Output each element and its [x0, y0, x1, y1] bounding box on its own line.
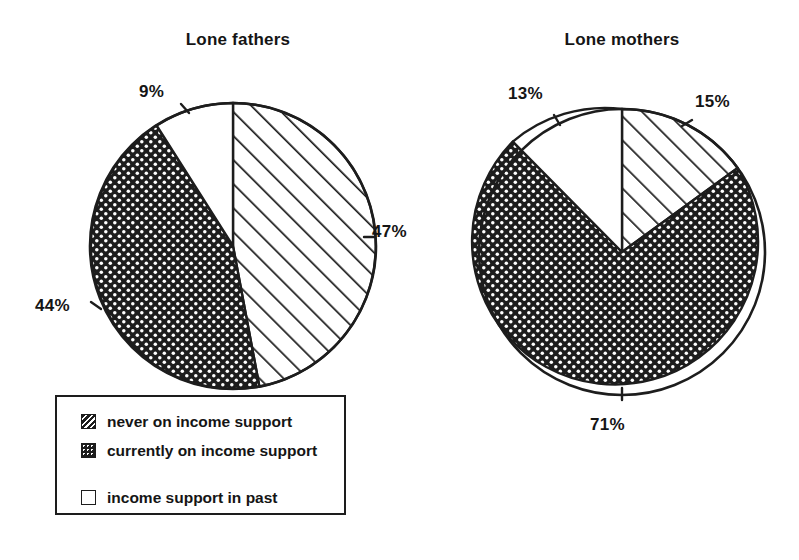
- pct-label-fathers-past: 9%: [139, 82, 164, 102]
- leader-fathers-current: [91, 302, 101, 309]
- legend-item-currently-on-income-support: currently on income support: [81, 440, 317, 461]
- pct-label-fathers-never: 47%: [372, 222, 407, 242]
- legend-label-currently-on-income-support: currently on income support: [107, 440, 317, 461]
- pct-label-mothers-past: 13%: [508, 84, 543, 104]
- legend-item-never-on-income-support: never on income support: [81, 411, 292, 432]
- legend-swatch-stipple-icon: [81, 443, 96, 458]
- chart-title-lone-mothers: Lone mothers: [532, 30, 712, 50]
- pie-chart-figure: Lone fathers Lone mothers 9% 47% 44% 13%…: [0, 0, 799, 560]
- pie-lone-mothers: [472, 108, 765, 400]
- legend-item-income-support-in-past: income support in past: [81, 487, 278, 508]
- pct-label-mothers-never: 15%: [695, 92, 730, 112]
- pie-lone-fathers: [90, 103, 376, 389]
- legend-label-income-support-in-past: income support in past: [107, 487, 278, 508]
- chart-title-lone-fathers: Lone fathers: [148, 30, 328, 50]
- pct-label-mothers-current: 71%: [590, 415, 625, 435]
- legend-swatch-hatch-icon: [81, 414, 96, 429]
- slice-fathers-never: [233, 103, 376, 387]
- legend-label-never-on-income-support: never on income support: [107, 411, 292, 432]
- chart-legend: never on income support currently on inc…: [55, 395, 346, 515]
- pct-label-fathers-current: 44%: [35, 296, 70, 316]
- legend-swatch-plain-icon: [81, 490, 96, 505]
